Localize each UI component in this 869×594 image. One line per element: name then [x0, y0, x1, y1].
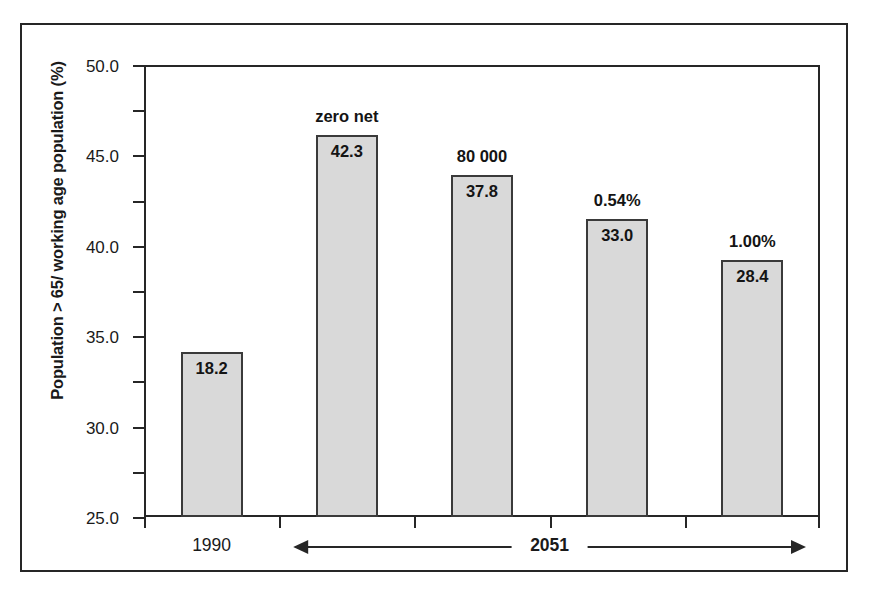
y-axis-tick: 0.0 — [133, 517, 144, 519]
bar-value-label: 42.3 — [318, 142, 376, 161]
x-axis-tick — [818, 517, 820, 528]
y-axis-tick: 10.0 — [133, 427, 144, 429]
x-axis-tick — [414, 517, 416, 528]
x-axis-tick — [144, 517, 146, 528]
bar-slot: 33.00.54% — [550, 65, 685, 517]
y-axis-tick-label: 50.0 — [86, 57, 119, 77]
y-axis-tick-label: 30.0 — [86, 419, 119, 439]
bar[interactable]: 33.0 — [586, 219, 648, 517]
bar[interactable]: 42.3 — [316, 135, 378, 517]
x-axis-tick — [279, 517, 281, 528]
bar-slot: 28.41.00% — [685, 65, 820, 517]
bar-value-label: 18.2 — [183, 359, 241, 378]
y-axis-tick: 50.0 — [133, 65, 144, 67]
x-axis-tick — [550, 517, 552, 528]
y-axis-tick: 15.0 — [133, 381, 144, 383]
bar-value-label: 28.4 — [723, 267, 781, 286]
y-axis-tick-label: 35.0 — [86, 328, 119, 348]
bar-slot: 18.2 — [144, 65, 279, 517]
y-axis-tick-label: 25.0 — [86, 509, 119, 529]
y-axis-tick-label: 45.0 — [86, 147, 119, 167]
bar[interactable]: 37.8 — [451, 175, 513, 517]
bar[interactable]: 18.2 — [181, 352, 243, 517]
x-axis-tick — [685, 517, 687, 528]
plot-area: 50.045.040.035.030.025.020.015.010.05.00… — [144, 65, 820, 517]
bar-annotation-label: zero net — [315, 107, 378, 126]
y-axis-tick: 5.0 — [133, 472, 144, 474]
y-axis-tick: 30.0 — [133, 246, 144, 248]
figure-frame: Population > 65/ working age population … — [20, 23, 848, 572]
bar-annotation-label: 0.54% — [594, 191, 641, 210]
y-axis-title: Population > 65/ working age population … — [48, 21, 67, 441]
y-axis-tick: 25.0 — [133, 291, 144, 293]
bar[interactable]: 28.4 — [721, 260, 783, 517]
bar-annotation-label: 1.00% — [729, 232, 776, 251]
y-axis-tick: 35.0 — [133, 201, 144, 203]
y-axis-tick: 45.0 — [133, 110, 144, 112]
y-axis-tick: 40.0 — [133, 155, 144, 157]
y-axis-tick: 20.0 — [133, 336, 144, 338]
bar-slot: 37.880 000 — [414, 65, 549, 517]
bar-slot: 42.3zero net — [279, 65, 414, 517]
bar-annotation-label: 80 000 — [457, 147, 507, 166]
x-range-double-arrow-icon — [144, 533, 820, 563]
bar-value-label: 33.0 — [588, 226, 646, 245]
bar-value-label: 37.8 — [453, 182, 511, 201]
y-axis-tick-label: 40.0 — [86, 238, 119, 258]
